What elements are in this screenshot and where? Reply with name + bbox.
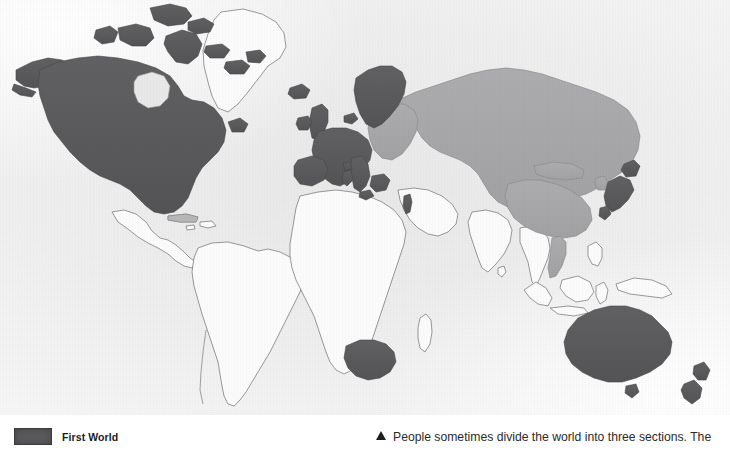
region-java	[550, 306, 588, 316]
map-detail-lines	[200, 330, 206, 404]
region-ellesmere-island	[150, 4, 192, 26]
region-newfoundland	[228, 118, 248, 132]
region-tasmania	[625, 384, 639, 398]
caption-text: People sometimes divide the world into t…	[393, 430, 711, 444]
region-cuba	[168, 214, 198, 222]
figure-caption: People sometimes divide the world into t…	[376, 430, 711, 444]
region-madagascar	[418, 314, 432, 352]
region-greece	[370, 174, 390, 192]
region-banks-island	[94, 26, 118, 44]
map-legend: First World	[14, 428, 118, 445]
region-iceland	[288, 84, 310, 99]
triangle-up-icon	[376, 431, 386, 440]
region-philippines	[588, 242, 602, 266]
region-new-zealand-south	[681, 380, 702, 404]
region-chile-coastline	[200, 330, 206, 404]
region-sardinia	[342, 170, 353, 186]
region-vietnam	[548, 236, 566, 278]
legend-swatch-first-world	[14, 428, 52, 445]
region-new-guinea	[616, 278, 672, 298]
world-map-figure	[0, 0, 730, 415]
region-baffin-island	[164, 30, 202, 64]
legend-label-first-world: First World	[62, 431, 118, 443]
region-iberia	[294, 156, 328, 186]
region-sulawesi	[596, 282, 608, 304]
region-south-africa	[344, 340, 396, 380]
region-north-america	[38, 56, 226, 214]
region-india	[468, 210, 512, 272]
region-ireland	[296, 116, 312, 130]
figure-page: First World People sometimes divide the …	[0, 0, 730, 454]
region-denmark	[344, 113, 358, 124]
region-greenland	[203, 9, 286, 112]
region-australia	[564, 306, 672, 382]
region-arctic-isle-a	[188, 18, 214, 34]
region-sumatra	[524, 282, 552, 306]
region-jamaica	[186, 225, 195, 230]
region-borneo	[560, 276, 594, 302]
world-map-svg	[0, 0, 730, 415]
region-south-america	[192, 242, 304, 406]
region-hispaniola	[200, 221, 216, 228]
region-sri-lanka	[498, 266, 506, 277]
region-victoria-island	[118, 24, 154, 46]
region-new-zealand-north	[693, 362, 710, 380]
